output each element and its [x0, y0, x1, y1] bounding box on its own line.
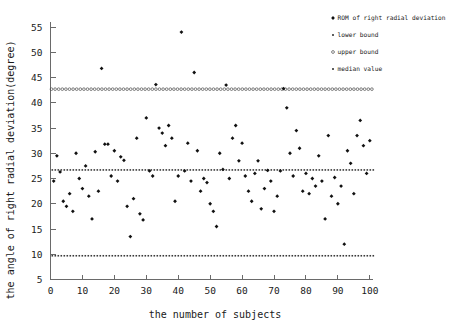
y-tick-label: 25 [31, 173, 42, 184]
y-tick-label: 10 [31, 249, 43, 260]
reference-marker [133, 255, 135, 257]
x-tick-label: 80 [300, 285, 312, 296]
reference-marker [193, 255, 195, 257]
reference-marker [70, 169, 72, 171]
reference-marker [172, 169, 174, 171]
reference-marker [310, 255, 312, 257]
reference-marker [358, 169, 360, 171]
reference-marker [118, 255, 120, 257]
reference-marker [160, 169, 162, 171]
y-tick-label: 5 [37, 274, 43, 285]
reference-marker [202, 255, 204, 257]
x-tick-label: 90 [332, 285, 344, 296]
y-tick-label: 30 [31, 148, 43, 159]
reference-marker [97, 169, 99, 171]
y-tick-label: 40 [31, 97, 43, 108]
reference-marker [109, 255, 111, 257]
reference-marker [289, 255, 291, 257]
reference-marker [373, 255, 375, 257]
reference-marker [235, 169, 237, 171]
reference-marker [166, 255, 168, 257]
reference-marker [250, 169, 252, 171]
reference-marker [322, 169, 324, 171]
reference-marker [85, 169, 87, 171]
legend-item[interactable]: ROM of right radial deviation [331, 14, 446, 22]
reference-marker [238, 169, 240, 171]
reference-marker [367, 255, 369, 257]
reference-marker [100, 255, 102, 257]
reference-marker [190, 255, 192, 257]
reference-marker [73, 255, 75, 257]
reference-marker [217, 255, 219, 257]
reference-marker [193, 169, 195, 171]
reference-marker [229, 255, 231, 257]
reference-marker [370, 169, 372, 171]
reference-marker [73, 169, 75, 171]
reference-marker [199, 169, 201, 171]
reference-marker [256, 169, 258, 171]
reference-marker [280, 255, 282, 257]
reference-marker [361, 169, 363, 171]
reference-marker [352, 255, 354, 257]
reference-marker [136, 169, 138, 171]
reference-marker [136, 255, 138, 257]
reference-marker [154, 169, 156, 171]
reference-marker [232, 255, 234, 257]
y-axis-title-label: the angle of right radial deviation(degr… [5, 41, 16, 300]
reference-marker [67, 169, 69, 171]
reference-marker [208, 169, 210, 171]
reference-marker [301, 169, 303, 171]
reference-marker [292, 169, 294, 171]
reference-marker [112, 169, 114, 171]
reference-marker [340, 255, 342, 257]
legend-item[interactable]: upper bound [332, 48, 379, 56]
reference-marker [283, 255, 285, 257]
reference-marker [298, 255, 300, 257]
reference-marker [187, 255, 189, 257]
reference-marker [289, 169, 291, 171]
reference-marker [211, 169, 213, 171]
reference-marker [121, 255, 123, 257]
reference-marker [244, 255, 246, 257]
reference-marker [127, 169, 129, 171]
reference-marker [226, 169, 228, 171]
reference-marker [229, 169, 231, 171]
reference-marker [352, 169, 354, 171]
reference-marker [295, 255, 297, 257]
reference-marker [241, 169, 243, 171]
legend-marker-dot-icon [332, 68, 334, 70]
reference-marker [61, 169, 63, 171]
reference-marker [118, 169, 120, 171]
reference-marker [355, 169, 357, 171]
reference-marker [91, 169, 93, 171]
reference-marker [337, 169, 339, 171]
legend-marker-dot-icon [332, 34, 334, 36]
reference-marker [298, 169, 300, 171]
reference-marker [154, 255, 156, 257]
reference-marker [328, 255, 330, 257]
reference-marker [181, 255, 183, 257]
reference-marker [211, 255, 213, 257]
x-tick-label: 50 [204, 285, 216, 296]
reference-marker [220, 169, 222, 171]
x-tick-label: 30 [141, 285, 153, 296]
y-tick-label: 15 [31, 224, 42, 235]
reference-marker [58, 255, 60, 257]
reference-marker [127, 255, 129, 257]
reference-marker [163, 255, 165, 257]
legend-item-label: lower bound [338, 31, 379, 38]
reference-marker [346, 255, 348, 257]
reference-marker [91, 255, 93, 257]
reference-marker [178, 169, 180, 171]
legend-item[interactable]: lower bound [332, 31, 379, 38]
reference-marker [94, 169, 96, 171]
reference-marker [319, 169, 321, 171]
reference-marker [373, 169, 375, 171]
reference-marker [115, 255, 117, 257]
reference-marker [241, 255, 243, 257]
legend-item[interactable]: median value [332, 65, 382, 72]
reference-marker [160, 255, 162, 257]
reference-marker [214, 255, 216, 257]
reference-marker [301, 255, 303, 257]
reference-marker [139, 255, 141, 257]
